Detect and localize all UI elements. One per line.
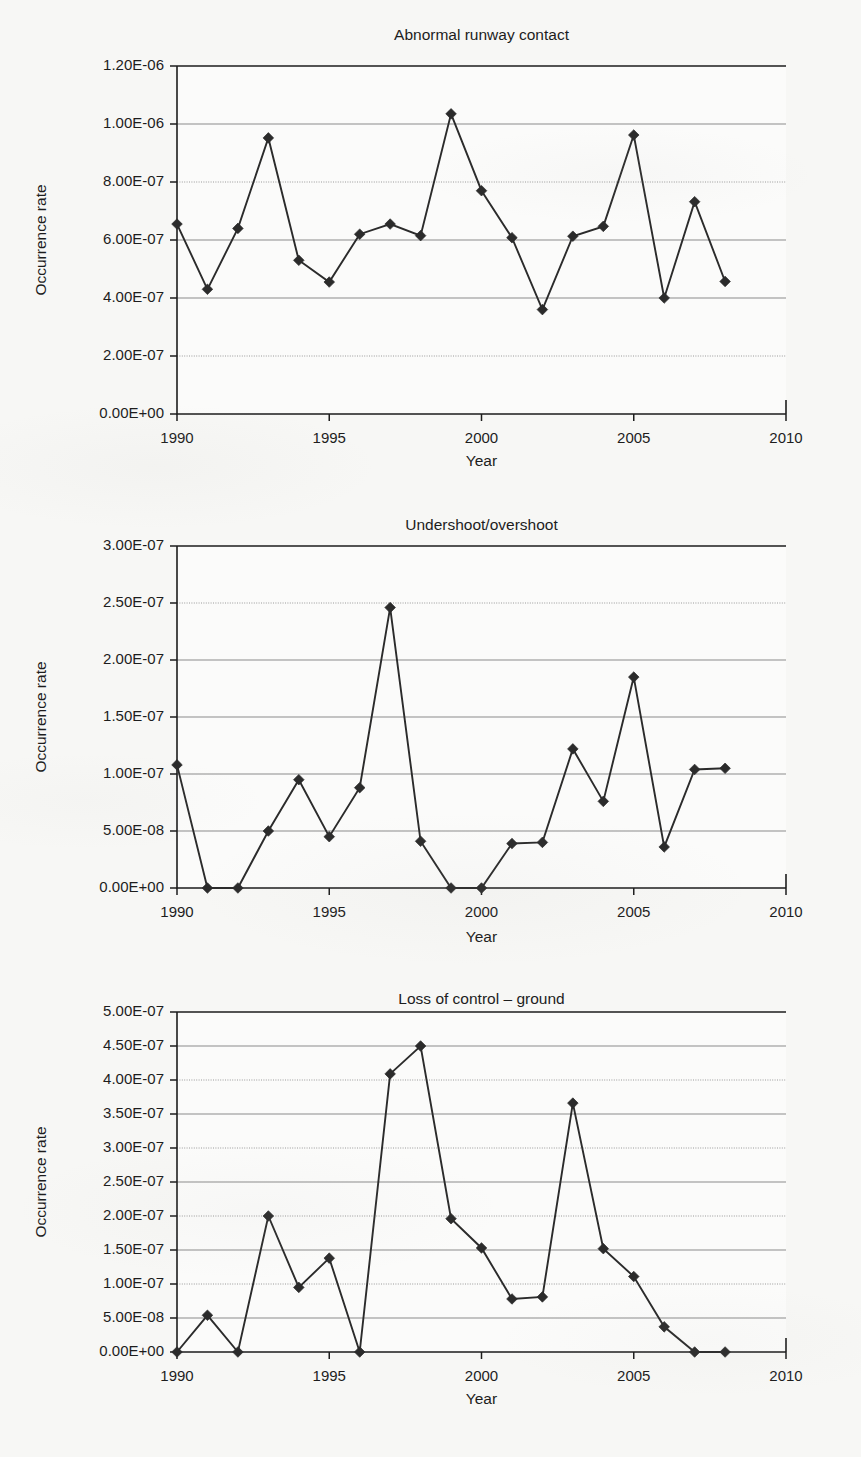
x-tick-label: 1990 — [160, 1367, 193, 1384]
chart-panel-abnormal-runway-contact: Abnormal runway contact0.00E+002.00E-074… — [0, 0, 861, 482]
y-tick-label: 4.00E-07 — [103, 288, 164, 305]
y-tick-label: 2.50E-07 — [103, 593, 164, 610]
y-tick-label: 5.00E-08 — [103, 821, 164, 838]
y-tick-label: 0.00E+00 — [99, 878, 164, 895]
x-axis-title: Year — [466, 928, 497, 945]
x-tick-label: 2000 — [465, 903, 498, 920]
y-tick-label: 4.00E-07 — [103, 1070, 164, 1087]
y-tick-label: 1.50E-07 — [103, 1240, 164, 1257]
chart-title: Loss of control – ground — [398, 990, 564, 1007]
y-axis-title: Occurrence rate — [32, 661, 49, 772]
y-axis-title: Occurrence rate — [32, 1126, 49, 1237]
x-tick-label: 2005 — [617, 1367, 650, 1384]
x-tick-label: 2005 — [617, 429, 650, 446]
chart-panel-undershoot-overshoot: Undershoot/overshoot0.00E+005.00E-081.00… — [0, 482, 861, 962]
y-tick-label: 5.00E-07 — [103, 1002, 164, 1019]
y-tick-label: 0.00E+00 — [99, 1342, 164, 1359]
y-tick-label: 1.00E-06 — [103, 114, 164, 131]
chart-undershoot-overshoot: Undershoot/overshoot0.00E+005.00E-081.00… — [0, 482, 861, 962]
x-tick-label: 2005 — [617, 903, 650, 920]
x-axis-title: Year — [466, 452, 497, 469]
y-tick-label: 6.00E-07 — [103, 230, 164, 247]
y-tick-label: 2.00E-07 — [103, 346, 164, 363]
x-tick-label: 2010 — [769, 1367, 802, 1384]
y-tick-label: 8.00E-07 — [103, 172, 164, 189]
y-tick-label: 1.00E-07 — [103, 764, 164, 781]
x-tick-label: 1990 — [160, 903, 193, 920]
x-tick-label: 2000 — [465, 1367, 498, 1384]
y-tick-label: 5.00E-08 — [103, 1308, 164, 1325]
chart-title: Undershoot/overshoot — [405, 516, 558, 533]
y-tick-label: 3.00E-07 — [103, 1138, 164, 1155]
x-tick-label: 2000 — [465, 429, 498, 446]
y-tick-label: 3.00E-07 — [103, 536, 164, 553]
chart-loss-of-control-ground: Loss of control – ground0.00E+005.00E-08… — [0, 962, 861, 1457]
y-tick-label: 1.00E-07 — [103, 1274, 164, 1291]
y-tick-label: 2.50E-07 — [103, 1172, 164, 1189]
x-tick-label: 1995 — [313, 429, 346, 446]
x-tick-label: 2010 — [769, 903, 802, 920]
y-tick-label: 1.50E-07 — [103, 707, 164, 724]
y-tick-label: 1.20E-06 — [103, 56, 164, 73]
x-tick-label: 1990 — [160, 429, 193, 446]
x-axis-title: Year — [466, 1390, 497, 1407]
chart-title: Abnormal runway contact — [394, 26, 570, 43]
y-tick-label: 4.50E-07 — [103, 1036, 164, 1053]
chart-abnormal-runway-contact: Abnormal runway contact0.00E+002.00E-074… — [0, 0, 861, 482]
y-axis-title: Occurrence rate — [32, 184, 49, 295]
y-tick-label: 2.00E-07 — [103, 650, 164, 667]
y-tick-label: 3.50E-07 — [103, 1104, 164, 1121]
chart-panel-loss-of-control-ground: Loss of control – ground0.00E+005.00E-08… — [0, 962, 861, 1457]
y-tick-label: 0.00E+00 — [99, 404, 164, 421]
x-tick-label: 1995 — [313, 1367, 346, 1384]
x-tick-label: 2010 — [769, 429, 802, 446]
y-tick-label: 2.00E-07 — [103, 1206, 164, 1223]
x-tick-label: 1995 — [313, 903, 346, 920]
